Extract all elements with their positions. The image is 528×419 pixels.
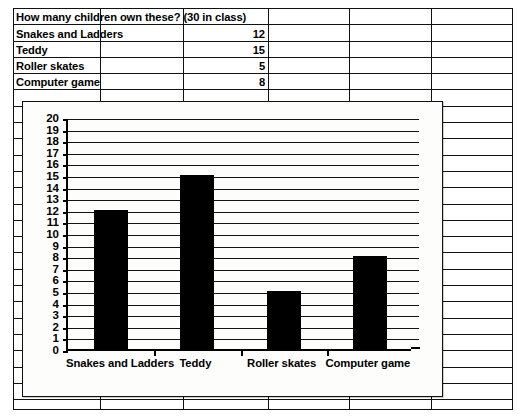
- gridline: [68, 131, 419, 132]
- table-row-value: 5: [190, 58, 265, 74]
- gridline: [68, 189, 419, 190]
- y-axis-tick-label: 9: [33, 241, 59, 253]
- x-axis-tick: [241, 349, 243, 356]
- y-axis-tick-label: 8: [33, 252, 59, 264]
- y-axis-tick-label: 12: [33, 206, 59, 218]
- x-axis-tick: [327, 349, 329, 356]
- y-axis-tick-label: 20: [33, 113, 59, 125]
- y-axis-tick-label: 3: [33, 310, 59, 322]
- y-axis-tick-label: 14: [33, 183, 59, 195]
- y-axis-tick: [63, 305, 68, 307]
- y-axis-tick: [63, 316, 68, 318]
- worksheet-page: How many children own these? (30 in clas…: [0, 0, 528, 419]
- bar: [94, 210, 128, 349]
- x-axis-category-label: Computer game: [325, 357, 411, 369]
- y-axis-tick: [63, 328, 68, 330]
- y-axis-tick-label: 18: [33, 136, 59, 148]
- gridline: [68, 177, 419, 178]
- table-row-value: 12: [190, 26, 265, 42]
- y-axis-tick: [63, 223, 68, 225]
- bar: [180, 175, 214, 349]
- y-axis-tick-label: 11: [33, 217, 59, 229]
- x-axis-tick: [154, 349, 156, 356]
- y-axis-tick-label: 1: [33, 333, 59, 345]
- gridline: [68, 200, 419, 201]
- x-axis-category-label: Snakes and Ladders: [66, 357, 152, 369]
- table-row-value: 15: [190, 42, 265, 58]
- gridline: [68, 165, 419, 166]
- y-axis-tick-label: 2: [33, 322, 59, 334]
- y-axis-tick-label: 5: [33, 287, 59, 299]
- y-axis-tick: [63, 247, 68, 249]
- y-axis-tick: [63, 189, 68, 191]
- y-axis-tick: [63, 154, 68, 156]
- y-axis-tick: [63, 212, 68, 214]
- table-row-value: 8: [190, 74, 265, 90]
- y-axis-tick-label: 19: [33, 125, 59, 137]
- table-row-label: Roller skates: [16, 58, 84, 74]
- y-axis-tick: [63, 339, 68, 341]
- y-axis-tick-label: 10: [33, 229, 59, 241]
- plot-area: [66, 119, 411, 351]
- y-axis-tick: [63, 281, 68, 283]
- table-row-label: Teddy: [16, 42, 48, 58]
- gridline: [68, 119, 419, 120]
- y-axis-tick: [63, 293, 68, 295]
- table-row-label: Snakes and Ladders: [16, 26, 123, 42]
- y-axis-tick-label: 6: [33, 275, 59, 287]
- y-axis-tick: [63, 165, 68, 167]
- y-axis-tick: [63, 142, 68, 144]
- y-axis-tick: [63, 200, 68, 202]
- y-axis-tick: [63, 119, 68, 121]
- y-axis-tick: [63, 270, 68, 272]
- x-axis-category-label: Teddy: [152, 357, 238, 369]
- y-axis-tick-label: 0: [33, 345, 59, 357]
- y-axis-tick-label: 15: [33, 171, 59, 183]
- y-axis-tick-label: 17: [33, 148, 59, 160]
- y-axis-tick: [63, 258, 68, 260]
- table-row-label: Computer game: [16, 74, 100, 90]
- table-title-cell: How many children own these? (30 in clas…: [16, 9, 246, 25]
- gridline: [68, 142, 419, 143]
- x-axis-category-label: Roller skates: [239, 357, 325, 369]
- bar: [353, 256, 387, 349]
- y-axis-tick-label: 16: [33, 159, 59, 171]
- gridline: [68, 154, 419, 155]
- y-axis-tick-label: 13: [33, 194, 59, 206]
- y-axis-tick: [63, 131, 68, 133]
- bar-chart-panel: 01234567891011121314151617181920 Snakes …: [22, 101, 443, 397]
- y-axis-tick: [63, 351, 68, 353]
- plot-area-wrapper: 01234567891011121314151617181920 Snakes …: [66, 119, 411, 351]
- x-axis-extension: [411, 347, 420, 349]
- y-axis-tick: [63, 235, 68, 237]
- y-axis-tick-label: 7: [33, 264, 59, 276]
- bar: [267, 291, 301, 349]
- y-axis-tick-label: 4: [33, 299, 59, 311]
- y-axis-tick: [63, 177, 68, 179]
